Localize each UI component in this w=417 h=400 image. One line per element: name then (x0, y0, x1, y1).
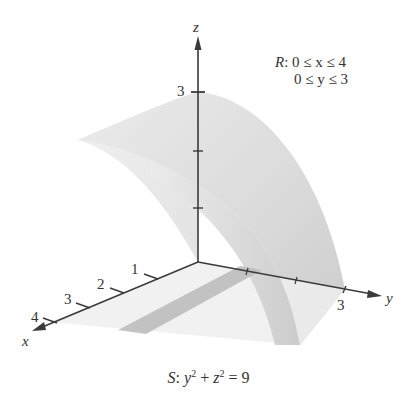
region-x-bounds: 0 ≤ x ≤ 4 (292, 54, 346, 70)
caption-rhs: = 9 (228, 369, 249, 386)
surface-name: S (168, 369, 176, 386)
y-axis-arrowhead (367, 290, 382, 298)
x-tick-label-2: 2 (97, 277, 105, 292)
y-tick-label-3: 3 (337, 298, 345, 313)
z-tick-label-3: 3 (177, 84, 185, 99)
x-tick-1 (144, 274, 158, 279)
surface-figure (0, 0, 417, 400)
region-line-1: R: 0 ≤ x ≤ 4 (275, 54, 348, 71)
x-tick-3 (76, 303, 90, 308)
x-axis-label: x (22, 334, 29, 349)
region-y-bounds: 0 ≤ y ≤ 3 (294, 71, 348, 87)
region-line-2: 0 ≤ y ≤ 3 (275, 71, 348, 88)
x-tick-label-4: 4 (31, 310, 39, 325)
x-tick-label-3: 3 (64, 292, 72, 307)
z-axis-label: z (193, 20, 199, 35)
x-tick-label-1: 1 (131, 262, 139, 277)
caption-exp-z: 2 (219, 368, 224, 379)
surface-caption: S: y2 + z2 = 9 (0, 369, 417, 387)
caption-exp-y: 2 (191, 368, 196, 379)
x-tick-2 (110, 288, 124, 293)
z-axis-arrowhead (195, 36, 202, 50)
region-name: R (275, 54, 284, 70)
y-axis-label: y (386, 291, 393, 306)
region-description: R: 0 ≤ x ≤ 4 0 ≤ y ≤ 3 (275, 54, 348, 88)
